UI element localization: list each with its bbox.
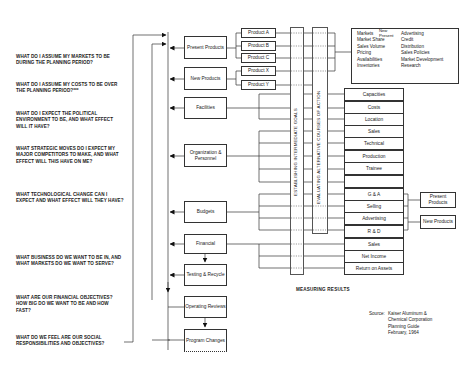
box-advertising: Advertising bbox=[344, 212, 404, 225]
box-new-products: New Products bbox=[184, 67, 227, 90]
box-product-x: Product X bbox=[241, 66, 276, 76]
box-capacities: Capacities bbox=[344, 88, 404, 101]
box-product-b: Product B bbox=[241, 41, 276, 51]
question-technology: What technological change can I expect a… bbox=[16, 192, 124, 205]
question-financial: What are our financial objectives? How b… bbox=[16, 295, 124, 314]
box-technical: Technical bbox=[344, 137, 404, 150]
question-costs: What do I assume my costs to be over the… bbox=[16, 82, 124, 95]
band-alternative-courses-label: Evaluating Alternative Courses of Action bbox=[316, 91, 321, 204]
box-program-changes: Program Changes bbox=[184, 329, 227, 352]
box-testing-recycle: Testing & Recycle bbox=[184, 264, 227, 286]
box-budgets: Budgets bbox=[184, 201, 227, 223]
source-text: Kaiser Aluminum & Chemical Corporation P… bbox=[388, 311, 432, 337]
measuring-results-label: MEASURING RESULTS bbox=[296, 287, 350, 292]
box-trainee: Trainee bbox=[344, 162, 404, 175]
box-organization-personnel: Organization & Personnel bbox=[184, 144, 227, 167]
markets-detail-box: Markets Market Share Sales Volume Pricin… bbox=[351, 28, 459, 84]
box-facilities: Facilities bbox=[184, 97, 227, 119]
question-political: What do I expect the political environme… bbox=[16, 111, 124, 130]
box-blank bbox=[344, 175, 404, 188]
markets-item: Inventories bbox=[357, 63, 385, 69]
band-intermediate-goals-label: Establishing Intermediate Goals bbox=[293, 108, 298, 196]
source-label: Source: bbox=[369, 311, 385, 317]
source-line: Chemical Corporation bbox=[388, 317, 432, 323]
box-financial: Financial bbox=[184, 234, 227, 254]
box-r-and-d: R & D bbox=[344, 225, 404, 238]
question-social: What do we feel are our social responsib… bbox=[16, 335, 124, 348]
box-product-a: Product A bbox=[241, 28, 276, 38]
box-operating-reviews: Operating Reviews bbox=[184, 296, 227, 318]
question-competitors: What strategic moves do I expect my majo… bbox=[16, 146, 124, 165]
box-present-products: Present Products bbox=[184, 36, 227, 59]
markets-item: Market Share bbox=[357, 37, 385, 43]
box-product-y: Product Y bbox=[241, 80, 276, 90]
source-line: February, 1964 bbox=[388, 330, 432, 336]
box-side-new-products: New Products bbox=[420, 215, 456, 229]
box-side-present-products: Present Products bbox=[420, 192, 456, 208]
question-business: What business do we want to be in, and w… bbox=[16, 255, 124, 268]
box-product-c: Product C bbox=[241, 53, 276, 63]
markets-present: Present bbox=[379, 34, 393, 39]
question-markets: What do I assume my markets to be during… bbox=[16, 54, 124, 67]
box-return-on-assets: Return on Assets bbox=[344, 262, 404, 275]
markets-item: Research bbox=[401, 63, 443, 69]
